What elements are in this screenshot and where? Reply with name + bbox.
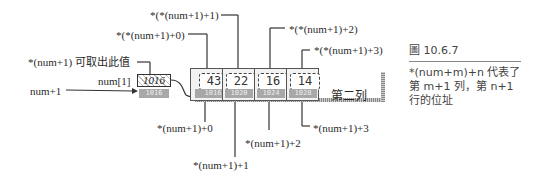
deref-note-text: *(num+1) 可取出此值 <box>28 56 130 68</box>
deref-note: *(num+1) 可取出此值 <box>28 56 130 68</box>
label-elem-0-top: *(*(num+1)+0) <box>116 29 185 41</box>
label-elem-1-bottom: *(num+1)+1 <box>193 159 249 171</box>
num1-label: num[1] <box>98 75 130 87</box>
cell-address: 1020 <box>225 89 253 98</box>
row-shadow-right <box>381 72 385 102</box>
array-cell-1: 22 1020 <box>222 68 255 101</box>
pointer-address: 1016 <box>139 89 169 98</box>
pointer-box: 1016 <box>137 74 171 87</box>
cell-value: 16 <box>258 73 288 90</box>
array-cell-2: 16 1024 <box>254 68 287 101</box>
label-elem-2-bottom: *(num+1)+2 <box>245 137 301 149</box>
label-elem-3-bottom: *(num+1)+3 <box>313 122 369 134</box>
label-elem-3-top: *(*(num+1)+3) <box>314 44 383 56</box>
figure-description: *(num+m)+n 代表了第 m+1 列，第 n+1 行的位址 <box>409 66 521 108</box>
array-cell-3: 14 1028 <box>286 68 319 101</box>
row-label: 第二列 <box>331 90 367 102</box>
figure-caption: 圖 10.6.7 *(num+m)+n 代表了第 m+1 列，第 n+1 行的位… <box>409 41 521 108</box>
cell-value: 22 <box>226 73 256 90</box>
num-plus-1-label: num+1 <box>30 85 61 97</box>
label-elem-1-top: *(*(num+1)+1) <box>150 9 219 21</box>
cell-address: 1028 <box>289 89 317 98</box>
label-elem-0-bottom: *(num+1)+0 <box>157 122 213 134</box>
figure-number: 圖 10.6.7 <box>409 41 521 62</box>
cell-address: 1024 <box>257 89 285 98</box>
cell-value: 14 <box>290 73 320 90</box>
label-elem-2-top: *(*(num+1)+2) <box>289 23 358 35</box>
